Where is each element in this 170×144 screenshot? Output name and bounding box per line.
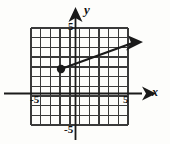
x-tick-label-positive: 5: [123, 94, 129, 105]
x-tick-label-negative: -5: [30, 94, 39, 105]
coordinate-plane-svg: [0, 0, 170, 144]
y-axis-label: y: [84, 3, 90, 16]
grid-lines: [31, 28, 128, 125]
x-axis-label: x: [152, 86, 158, 98]
y-tick-label-negative: -5: [64, 124, 73, 135]
endpoint-dot: [57, 65, 65, 73]
y-tick-label-positive: 5: [68, 21, 74, 32]
graph-figure: y x -5 5 5 -5: [0, 0, 170, 144]
